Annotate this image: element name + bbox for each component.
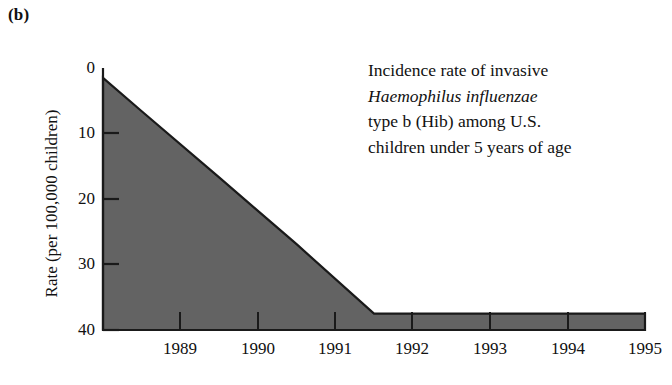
x-axis-tick-label-1990: 1990 <box>223 340 293 357</box>
annotation-line-3: type b (Hib) among U.S. <box>368 109 668 135</box>
x-axis-tick-label-1992: 1992 <box>377 340 447 357</box>
x-axis-tick-label-1989: 1989 <box>145 340 215 357</box>
annotation-line-2: Haemophilus influenzae <box>368 84 668 110</box>
x-axis-tick-label-1995: 1995 <box>610 340 672 357</box>
annotation-text-block: Incidence rate of invasiveHaemophilus in… <box>368 58 668 160</box>
annotation-line-4: children under 5 years of age <box>368 135 668 161</box>
x-axis-tick-label-1993: 1993 <box>455 340 525 357</box>
y-axis-tick-label-20: 20 <box>49 190 95 207</box>
y-axis-tick-label-30: 30 <box>49 255 95 272</box>
x-axis-tick-label-1991: 1991 <box>300 340 370 357</box>
x-axis-tick-label-1994: 1994 <box>533 340 603 357</box>
annotation-line-1: Incidence rate of invasive <box>368 58 668 84</box>
y-axis-tick-label-0: 0 <box>49 59 95 76</box>
y-axis-tick-label-40: 40 <box>49 321 95 338</box>
y-axis-tick-label-10: 10 <box>49 124 95 141</box>
